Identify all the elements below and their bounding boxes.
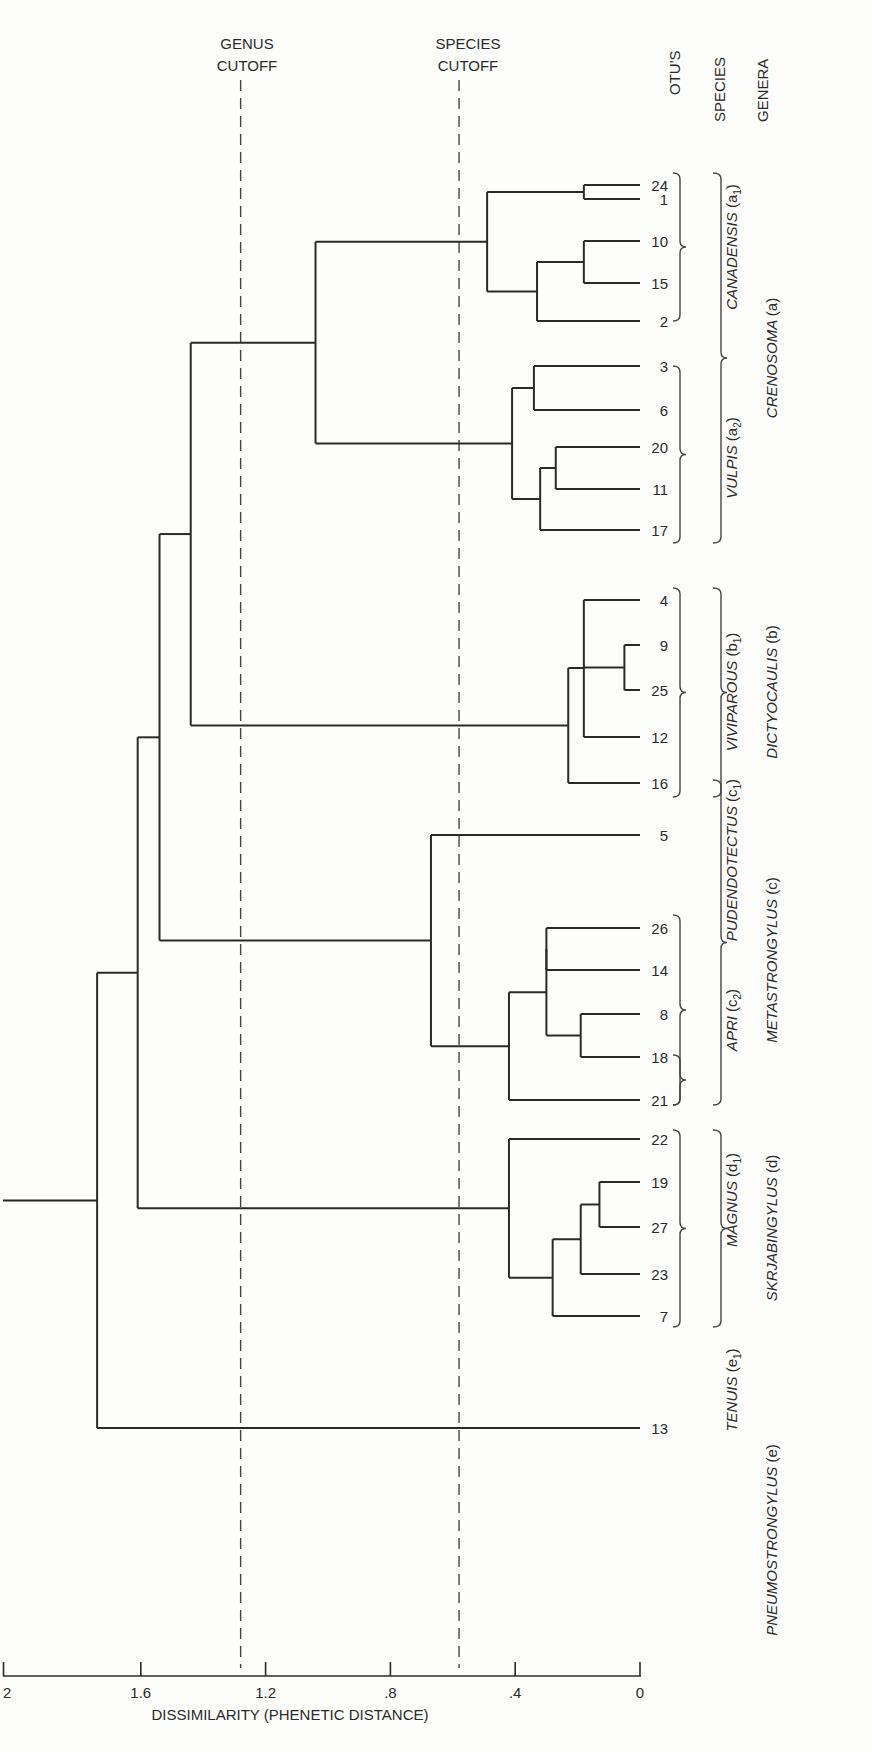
otu-label: 19 <box>651 1174 668 1191</box>
otu-label: 10 <box>651 233 668 250</box>
x-tick-label: 0 <box>636 1684 644 1701</box>
otu-label: 2 <box>660 313 668 330</box>
group-brace <box>673 915 686 1105</box>
otu-label: 5 <box>660 827 668 844</box>
otu-label: 25 <box>651 682 668 699</box>
species-label: TENUIS (e1) <box>723 1348 743 1431</box>
otu-label: 14 <box>651 962 668 979</box>
x-tick-label: .8 <box>384 1684 397 1701</box>
otu-label: 4 <box>660 592 668 609</box>
group-labels: CANADENSIS (a1)VULPIS (a2)VIVIPAROUS (b1… <box>723 184 780 1636</box>
otu-label: 23 <box>651 1266 668 1283</box>
genus-cutoff-label: GENUS <box>220 35 273 52</box>
otu-label: 3 <box>660 358 668 375</box>
genus-cutoff-label: CUTOFF <box>217 57 278 74</box>
cutoff-lines <box>241 80 459 1668</box>
otu-label: 12 <box>651 729 668 746</box>
column-header-species: SPECIES <box>711 57 728 122</box>
group-brace <box>673 588 686 797</box>
x-axis-title: DISSIMILARITY (PHENETIC DISTANCE) <box>152 1706 429 1723</box>
x-tick-label: 1.6 <box>130 1684 151 1701</box>
dendrogram-chart: 2411015236201117492512165261481821221927… <box>0 0 872 1752</box>
column-header-otus: OTU'S <box>666 50 683 95</box>
x-tick-label: 2 <box>3 1684 11 1701</box>
group-brace <box>673 173 686 321</box>
species-label: APRI (c2) <box>723 989 743 1052</box>
species-label: MAGNUS (d1) <box>723 1153 743 1247</box>
otu-label: 11 <box>652 481 668 498</box>
otu-label: 22 <box>651 1131 668 1148</box>
otu-label: 6 <box>660 402 668 419</box>
group-brace <box>673 1130 686 1327</box>
genus-label: METASTRONGYLUS (c) <box>763 877 780 1043</box>
otu-label: 7 <box>660 1308 668 1325</box>
otu-labels: 2411015236201117492512165261481821221927… <box>651 177 668 1437</box>
otu-label: 16 <box>651 775 668 792</box>
otu-label: 21 <box>651 1092 668 1109</box>
group-brace <box>673 366 686 543</box>
otu-label: 15 <box>651 275 668 292</box>
x-tick-label: 1.2 <box>255 1684 276 1701</box>
species-label: VULPIS (a2) <box>723 417 743 498</box>
otu-label: 26 <box>651 920 668 937</box>
species-label: CANADENSIS (a1) <box>723 184 743 310</box>
x-tick-label: .4 <box>509 1684 522 1701</box>
genus-label: PNEUMOSTRONGYLUS (e) <box>763 1444 780 1636</box>
genus-label: SKRJABINGYLUS (d) <box>763 1155 780 1302</box>
otu-label: 27 <box>651 1219 668 1236</box>
species-label: PUDENDOTECTUS (c1) <box>723 779 743 941</box>
otu-label: 8 <box>660 1006 668 1023</box>
species-cutoff-label: CUTOFF <box>438 57 499 74</box>
genus-label: DICTYOCAULIS (b) <box>763 625 780 758</box>
dendrogram-tree <box>3 185 640 1428</box>
otu-label: 18 <box>651 1049 668 1066</box>
otu-label: 13 <box>651 1420 668 1437</box>
otu-label: 17 <box>651 522 668 539</box>
column-header-genera: GENERA <box>754 59 771 122</box>
otu-label: 1 <box>660 191 668 208</box>
species-label: VIVIPAROUS (b1) <box>723 633 743 752</box>
group-brackets <box>673 173 727 1327</box>
otu-label: 20 <box>651 439 668 456</box>
otu-label: 9 <box>660 637 668 654</box>
x-axis: 21.61.2.8.40 <box>3 1662 644 1701</box>
species-cutoff-label: SPECIES <box>435 35 500 52</box>
genus-label: CRENOSOMA (a) <box>763 298 780 418</box>
